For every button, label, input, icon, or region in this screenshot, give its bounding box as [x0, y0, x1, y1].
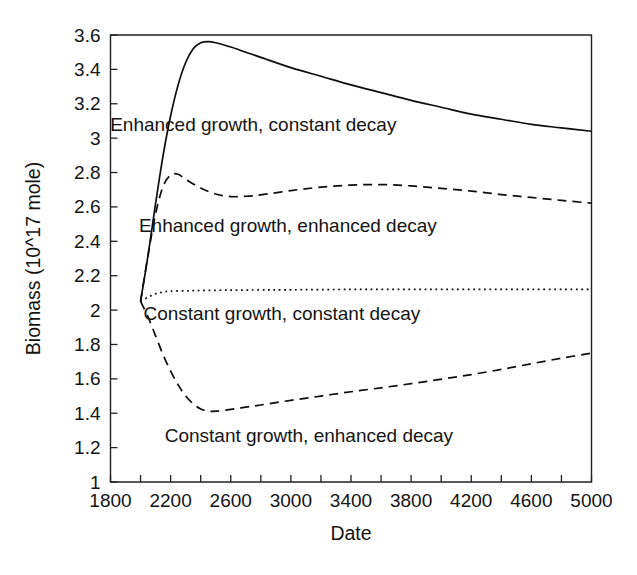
y-tick-label: 3.2 [74, 93, 100, 114]
series-label-1: Enhanced growth, constant decay [110, 114, 397, 135]
y-tick-label: 2.2 [74, 265, 100, 286]
y-tick-label: 1.6 [74, 368, 100, 389]
x-tick-label: 3800 [390, 490, 432, 511]
y-tick-label: 1.2 [74, 437, 100, 458]
y-tick-label: 2.4 [74, 231, 101, 252]
series-label-2: Enhanced growth, enhanced decay [139, 215, 437, 236]
series-label-4: Constant growth, enhanced decay [165, 425, 454, 446]
series-label-3: Constant growth, constant decay [143, 303, 420, 324]
y-tick-label: 3 [90, 128, 101, 149]
y-tick-label: 2.6 [74, 196, 100, 217]
x-tick-label: 4600 [510, 490, 552, 511]
x-tick-label: 2600 [210, 490, 252, 511]
y-tick-label: 3.4 [74, 59, 101, 80]
biomass-line-chart: 11.21.41.61.822.22.42.62.833.23.43.6 180… [0, 0, 637, 575]
x-axis-title: Date [330, 522, 371, 544]
x-tick-label: 5000 [570, 490, 612, 511]
x-tick-label: 3400 [330, 490, 372, 511]
x-tick-label: 3000 [270, 490, 312, 511]
y-tick-label: 2 [90, 300, 101, 321]
chart-figure: 11.21.41.61.822.22.42.62.833.23.43.6 180… [0, 0, 637, 575]
y-axis-title: Biomass (10^17 mole) [22, 162, 44, 355]
y-tick-label: 3.6 [74, 25, 100, 46]
x-tick-label: 2200 [149, 490, 191, 511]
x-tick-label: 1800 [89, 490, 131, 511]
y-tick-label: 2.8 [74, 162, 100, 183]
y-tick-label: 1.4 [74, 403, 101, 424]
x-tick-label: 4200 [450, 490, 492, 511]
y-tick-label: 1.8 [74, 334, 100, 355]
